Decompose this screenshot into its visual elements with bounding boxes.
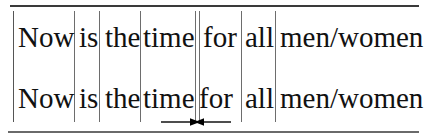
word-the-bottom: the: [105, 78, 140, 118]
word-now-top: Now: [18, 17, 74, 57]
word-for-bottom: for: [199, 78, 233, 118]
text-row-bottom: Now is the time for all men/women: [0, 78, 427, 118]
word-menwomen-top: men/women: [280, 17, 423, 57]
word-is-top: is: [79, 17, 98, 57]
text-row-top: Now is the time for all men/women: [0, 17, 427, 57]
left-pointing-arrow-head: [195, 118, 205, 126]
word-for-top: for: [203, 17, 237, 57]
word-all-top: all: [245, 17, 274, 57]
gap-measure-annotation: [160, 116, 232, 128]
word-the-top: the: [105, 17, 140, 57]
word-time-top: time: [143, 17, 195, 57]
top-rule: [10, 5, 419, 7]
word-is-bottom: is: [79, 78, 98, 118]
segmented-text-figure: Now is the time for all men/women Now is…: [0, 0, 427, 138]
word-now-bottom: Now: [18, 78, 74, 118]
bottom-rule: [8, 131, 419, 133]
word-menwomen-bottom: men/women: [280, 78, 423, 118]
word-time-bottom: time: [143, 78, 195, 118]
word-all-bottom: all: [245, 78, 274, 118]
